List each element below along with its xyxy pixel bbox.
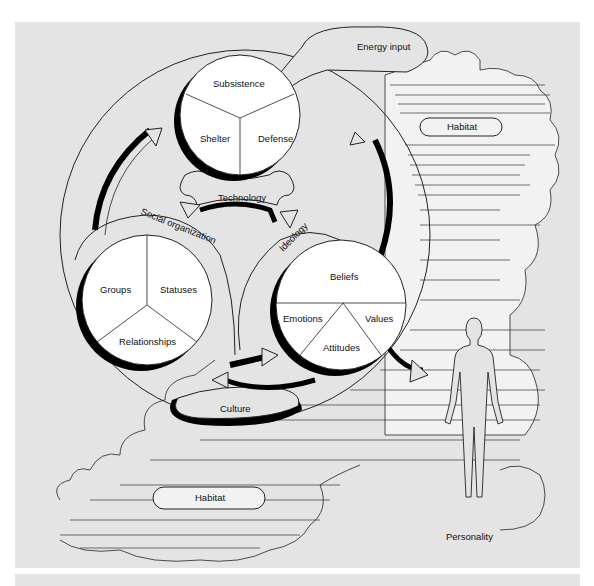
- culture-label: Culture: [220, 403, 251, 414]
- segment-shelter: Shelter: [200, 133, 230, 144]
- arrow-head-icon: [280, 210, 298, 228]
- segment-defense: Defense: [258, 133, 293, 144]
- segment-relationships: Relationships: [119, 336, 176, 347]
- segment-emotions: Emotions: [283, 313, 323, 324]
- personality-label: Personality: [446, 531, 493, 542]
- culture-habitat-personality-diagram: Energy input Habitat Habitat Personality…: [0, 0, 594, 586]
- arrow-head-icon: [180, 202, 200, 218]
- energy-input-label: Energy input: [357, 41, 411, 52]
- arrow-head-icon: [212, 372, 228, 388]
- social-organization-circle: [76, 235, 212, 371]
- habitat-top-label: Habitat: [447, 121, 477, 132]
- habitat-bottom-label: Habitat: [195, 492, 225, 503]
- segment-beliefs: Beliefs: [330, 271, 359, 282]
- segment-values: Values: [365, 313, 394, 324]
- segment-attitudes: Attitudes: [323, 342, 360, 353]
- arrow-head-icon: [262, 348, 278, 366]
- segment-statuses: Statuses: [160, 284, 197, 295]
- ideology-label: Ideology: [277, 220, 310, 253]
- segment-subsistence: Subsistence: [213, 78, 265, 89]
- technology-circle: [174, 55, 300, 181]
- segment-groups: Groups: [100, 284, 131, 295]
- technology-label: Technology: [218, 192, 266, 203]
